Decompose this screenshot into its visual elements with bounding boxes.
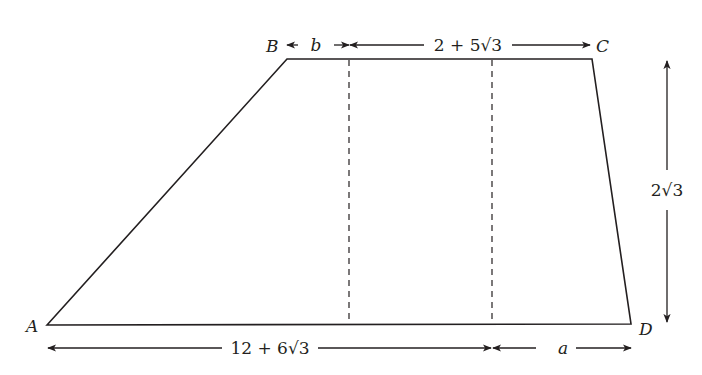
vertex-label-d: D bbox=[638, 319, 653, 339]
vertex-label-c: C bbox=[596, 36, 609, 56]
dimension-label-b: b bbox=[311, 35, 322, 55]
dimension-label-bottom: 12 + 6√3 bbox=[230, 338, 309, 358]
dimension-label-height: 2√3 bbox=[651, 180, 683, 200]
dimension-label-top: 2 + 5√3 bbox=[434, 35, 502, 55]
dimension-label-a: a bbox=[558, 338, 568, 358]
vertex-label-a: A bbox=[24, 316, 38, 336]
vertex-label-b: B bbox=[265, 36, 279, 56]
trapezoid-shape bbox=[47, 59, 631, 325]
trapezoid-diagram: b 2 + 5√3 12 + 6√3 a 2√3 A B C D bbox=[0, 0, 702, 375]
